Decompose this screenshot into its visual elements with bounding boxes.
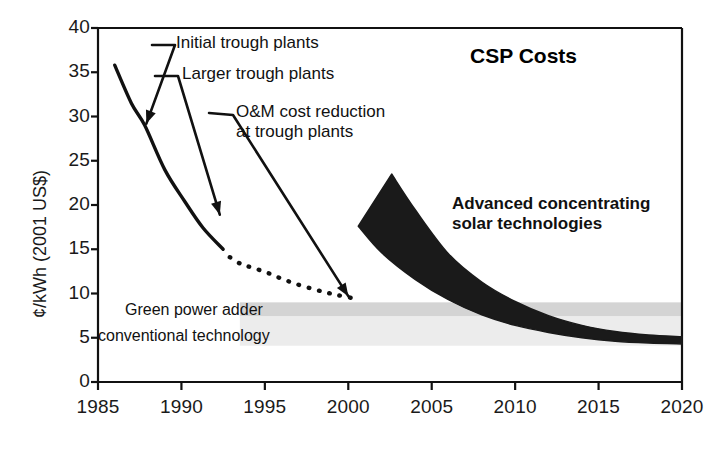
x-axis-tick-label: 2010 [481, 396, 549, 418]
x-axis-tick-label: 1990 [147, 396, 215, 418]
y-axis-tick-label: 20 [52, 193, 90, 215]
y-axis-tick-label: 10 [52, 282, 90, 304]
x-axis-tick-label: 1985 [64, 396, 132, 418]
trough-cost-historical-solid-curve [115, 65, 223, 249]
trough-cost-projected-dotted-curve [230, 257, 352, 298]
page-title: CSP Costs [470, 44, 577, 68]
initial-trough-plants-arrowhead [146, 110, 156, 124]
csp-costs-chart: 0510152025303540198519901995200020052010… [0, 0, 722, 449]
y-axis-tick-label: 0 [52, 370, 90, 392]
trough-plant-cost-curves [115, 65, 352, 298]
larger-trough-plants-arrowhead [211, 201, 221, 215]
annotation-green-power-adder: Green power adder [125, 301, 263, 320]
y-axis-title: ¢/kWh (2001 US$) [30, 170, 51, 318]
y-axis-tick-label: 30 [52, 105, 90, 127]
x-axis-tick-label: 2000 [314, 396, 382, 418]
larger-trough-plants-leader-line [155, 76, 220, 215]
annotation-initial-trough-plants: Initial trough plants [176, 33, 319, 53]
y-axis-tick-label: 25 [52, 149, 90, 171]
y-axis-tick-label: 35 [52, 60, 90, 82]
y-axis-tick-label: 5 [52, 326, 90, 348]
x-axis-tick-label: 1995 [231, 396, 299, 418]
x-axis-tick-label: 2020 [648, 396, 716, 418]
y-axis-tick-label: 40 [52, 16, 90, 38]
annotation-larger-trough-plants: Larger trough plants [182, 64, 334, 84]
x-axis-tick-label: 2015 [565, 396, 633, 418]
x-axis-tick-label: 2005 [398, 396, 466, 418]
annotation-conventional-technology: conventional technology [98, 327, 270, 346]
annotation-advanced-concentrating-solar: Advanced concentratingsolar technologies [452, 194, 650, 234]
annotation-om-cost-reduction: O&M cost reductionat trough plants [236, 102, 385, 142]
y-axis-tick-label: 15 [52, 237, 90, 259]
